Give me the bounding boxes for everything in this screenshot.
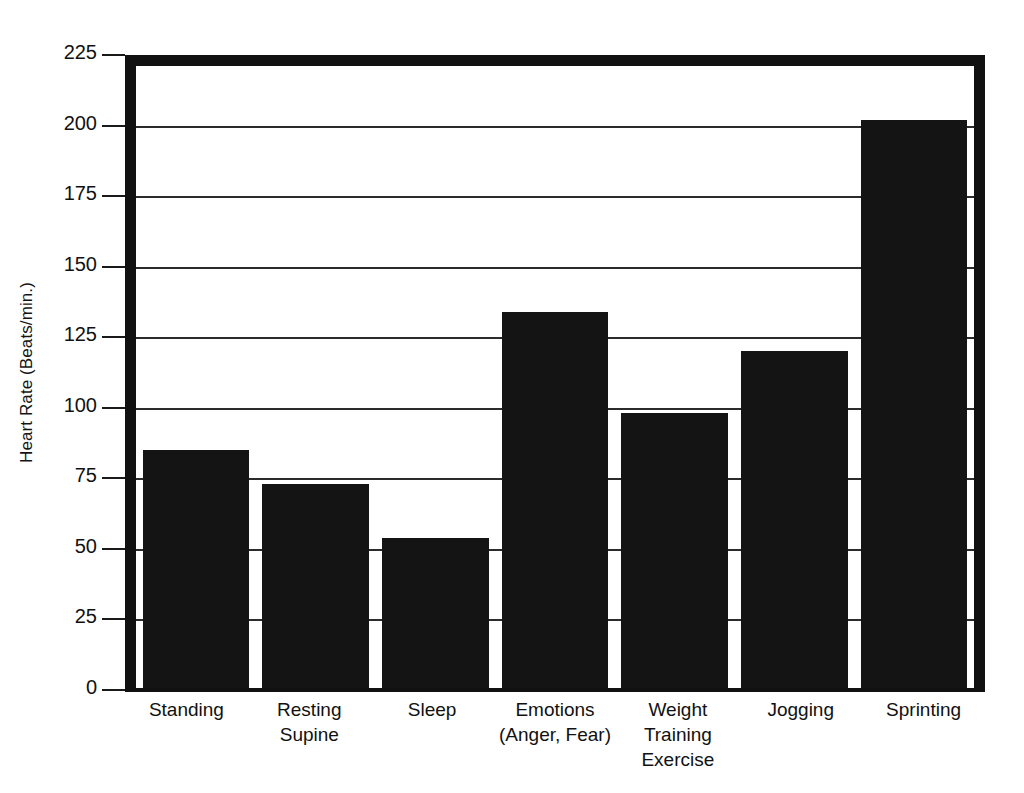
y-tick-label: 175: [64, 183, 97, 203]
x-axis-label: Jogging: [739, 697, 862, 793]
y-tick-mark: [102, 195, 125, 197]
y-tick-label: 125: [64, 324, 97, 344]
bar: [502, 312, 609, 690]
x-axis-label-line: Sleep: [373, 697, 492, 722]
x-axis-label-line: Supine: [250, 722, 369, 747]
x-axis-baseline: [125, 688, 985, 692]
y-tick-mark: [102, 548, 125, 550]
y-tick-mark: [102, 266, 125, 268]
bar: [262, 484, 369, 690]
y-tick-label: 75: [75, 465, 97, 485]
bar: [741, 351, 848, 690]
y-tick-label: 0: [86, 677, 97, 697]
y-tick-label: 100: [64, 395, 97, 415]
y-axis-title: Heart Rate (Beats/min.): [10, 55, 44, 690]
y-tick-mark: [102, 336, 125, 338]
x-axis-label-line: Emotions: [496, 697, 615, 722]
bar: [382, 538, 489, 690]
y-tick-mark: [102, 689, 125, 691]
x-axis-label-line: Jogging: [741, 697, 860, 722]
x-axis-label: Sleep: [371, 697, 494, 793]
x-axis-label: Emotions(Anger, Fear): [494, 697, 617, 793]
x-axis-label-line: Weight: [618, 697, 737, 722]
y-tick-mark: [102, 407, 125, 409]
bars-layer: [136, 66, 974, 690]
x-axis-label-line: Training: [618, 722, 737, 747]
x-axis-label-line: Sprinting: [864, 697, 983, 722]
y-tick-label: 150: [64, 254, 97, 274]
x-axis-label: Standing: [125, 697, 248, 793]
x-axis-labels: StandingRestingSupineSleepEmotions(Anger…: [125, 697, 985, 793]
bar: [621, 413, 728, 690]
x-axis-label-line: Resting: [250, 697, 369, 722]
bar: [143, 450, 250, 690]
y-tick-label: 25: [75, 606, 97, 626]
y-tick-label: 50: [75, 536, 97, 556]
y-tick-mark: [102, 477, 125, 479]
y-tick-label: 225: [64, 42, 97, 62]
x-axis-label: RestingSupine: [248, 697, 371, 793]
y-tick-mark: [102, 618, 125, 620]
x-axis-label-line: Standing: [127, 697, 246, 722]
y-tick-mark: [102, 125, 125, 127]
x-axis-label-line: (Anger, Fear): [496, 722, 615, 747]
x-axis-label: WeightTrainingExercise: [616, 697, 739, 793]
x-axis-label-line: Exercise: [618, 747, 737, 772]
y-tick-mark: [102, 54, 125, 56]
bar: [861, 120, 968, 690]
bar-chart: Heart Rate (Beats/min.) 2252001751501251…: [0, 0, 1024, 793]
x-axis-label: Sprinting: [862, 697, 985, 793]
y-tick-label: 200: [64, 113, 97, 133]
